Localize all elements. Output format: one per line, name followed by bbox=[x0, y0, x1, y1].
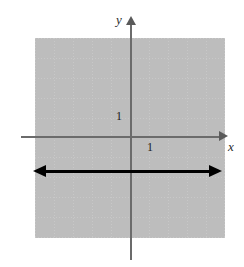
plotted-line-arrow-right-icon bbox=[209, 165, 222, 177]
plotted-line bbox=[44, 170, 211, 173]
x-axis-unit-tick-label: 1 bbox=[147, 140, 153, 155]
plotted-line-arrow-left-icon bbox=[33, 165, 46, 177]
grid-line-vertical bbox=[92, 38, 93, 238]
x-axis bbox=[21, 136, 221, 138]
grid-line-vertical bbox=[168, 38, 169, 238]
grid-line-vertical bbox=[206, 38, 207, 238]
grid-line-vertical bbox=[35, 38, 36, 238]
grid-line-vertical bbox=[187, 38, 188, 238]
y-axis-label: y bbox=[116, 12, 122, 28]
y-axis-arrow-icon bbox=[126, 16, 136, 25]
grid-line-vertical bbox=[149, 38, 150, 238]
x-axis-label: x bbox=[228, 139, 234, 155]
grid-line-vertical bbox=[111, 38, 112, 238]
y-axis-unit-tick-label: 1 bbox=[116, 109, 122, 124]
grid-line-vertical bbox=[73, 38, 74, 238]
y-axis bbox=[130, 25, 132, 260]
grid-line-vertical bbox=[54, 38, 55, 238]
coordinate-plane-figure: y x 1 1 bbox=[0, 0, 244, 267]
x-axis-arrow-icon bbox=[219, 131, 228, 141]
